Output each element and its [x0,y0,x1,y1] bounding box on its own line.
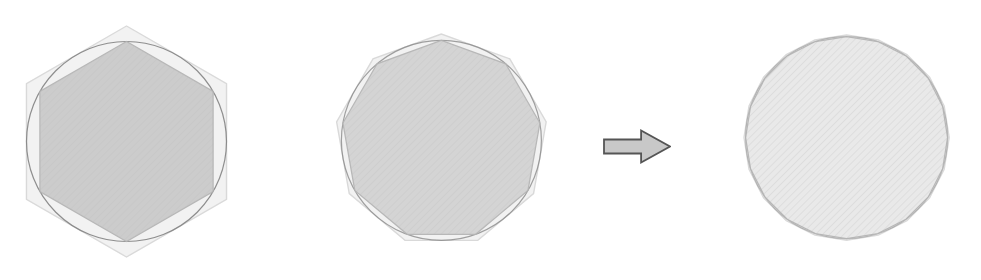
figure-nonagon-svg [311,10,572,271]
diagram-canvas [0,0,981,280]
arrow-shape [604,131,670,163]
arrow-right-icon [603,129,671,164]
progression-arrow [603,129,671,164]
figure-hexagon-svg [0,2,266,280]
nonagon-approximation [311,10,572,271]
inscribed-polygon [746,37,948,239]
figure-circle-svg [720,11,973,264]
hexagon-approximation [0,2,266,280]
limit-circle-approximation [720,11,973,264]
